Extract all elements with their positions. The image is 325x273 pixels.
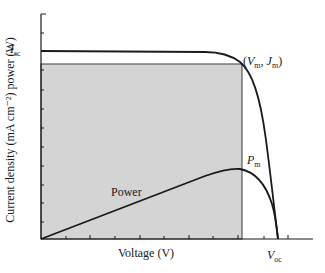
voc-label: Voc (267, 248, 282, 264)
isc-label: Isc (10, 42, 21, 58)
max-power-rectangle (41, 64, 242, 239)
power-curve-label: Power (111, 185, 142, 200)
jv-power-chart (0, 0, 325, 273)
vm-jm-label: (Vm, Jm) (243, 54, 282, 70)
x-axis-label: Voltage (V) (118, 246, 174, 261)
pm-label: Pm (247, 153, 261, 169)
